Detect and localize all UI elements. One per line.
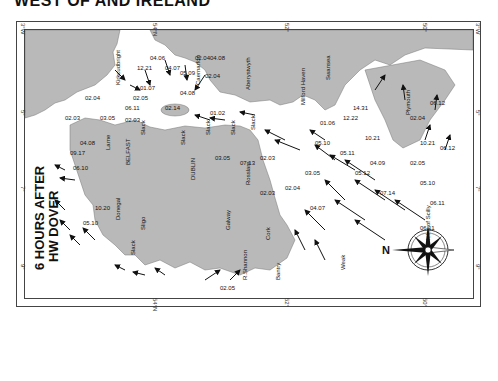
tick-top-52: 52° (284, 23, 290, 32)
svg-text:12.22: 12.22 (343, 115, 359, 121)
tidal-stream-map: Kirkcudbright Caernarfon Aberystwyth Mil… (24, 29, 474, 299)
svg-text:02.04: 02.04 (410, 115, 426, 121)
tick-bottom-50: 50° (422, 298, 428, 307)
svg-text:05.11: 05.11 (340, 150, 355, 156)
svg-text:05.09: 05.09 (180, 70, 196, 76)
tick-left-9: 9° (20, 264, 26, 270)
svg-text:02.03: 02.03 (125, 117, 141, 123)
svg-text:Milford Haven: Milford Haven (300, 68, 306, 105)
svg-text:Aberystwyth: Aberystwyth (245, 57, 251, 90)
svg-text:06.10: 06.10 (73, 165, 89, 171)
svg-text:07.13: 07.13 (240, 160, 256, 166)
svg-text:04.08: 04.08 (180, 90, 196, 96)
svg-text:02.03: 02.03 (260, 190, 276, 196)
svg-text:Slack: Slack (140, 119, 146, 135)
svg-text:04.09: 04.09 (370, 160, 386, 166)
svg-text:12.21: 12.21 (137, 65, 153, 71)
svg-text:Swansea: Swansea (325, 55, 331, 80)
tick-left-5: 5° (20, 110, 26, 116)
svg-text:DUBLIN: DUBLIN (190, 158, 196, 180)
tick-right-7: 7° (475, 186, 481, 192)
svg-text:R.Shannon: R.Shannon (242, 250, 248, 280)
svg-text:02.05: 02.05 (410, 160, 426, 166)
svg-text:02.14: 02.14 (165, 105, 181, 111)
page-title: WEST OF AND IRELAND (14, 0, 210, 10)
map-canvas: Kirkcudbright Caernarfon Aberystwyth Mil… (25, 30, 473, 298)
svg-text:Donegal: Donegal (115, 198, 121, 220)
map-time-title: 6 HOURS AFTER HW DOVER (33, 170, 61, 270)
tick-top-54: 54°N (152, 23, 158, 36)
svg-text:Slack: Slack (250, 114, 256, 130)
svg-text:14.31: 14.31 (353, 105, 369, 111)
svg-text:Cork: Cork (265, 226, 271, 240)
svg-text:Slack: Slack (180, 129, 186, 145)
tick-top-50: 50° (422, 23, 428, 32)
svg-text:01.02: 01.02 (210, 110, 226, 116)
svg-text:BELFAST: BELFAST (125, 138, 131, 165)
compass-north-label: N (382, 244, 390, 256)
svg-text:Sligo: Sligo (140, 216, 146, 230)
svg-text:06.11: 06.11 (125, 105, 140, 111)
tick-bottom-54: 54°N (152, 298, 158, 311)
svg-text:02.04: 02.04 (195, 55, 211, 61)
svg-text:07.14: 07.14 (380, 190, 396, 196)
tick-right-9: 9° (475, 264, 481, 270)
svg-text:05.10: 05.10 (420, 180, 436, 186)
tick-left-7: 7° (20, 186, 26, 192)
tick-bottom-52: 52° (284, 298, 290, 307)
land-scotland (25, 30, 120, 118)
svg-text:10.21: 10.21 (420, 140, 436, 146)
svg-text:02.03: 02.03 (260, 155, 276, 161)
svg-text:Slack: Slack (230, 119, 236, 135)
svg-text:Larne: Larne (105, 134, 111, 150)
map-title-line1: 6 HOURS AFTER (33, 170, 47, 270)
svg-text:Slack: Slack (130, 239, 136, 255)
svg-text:Bantry: Bantry (275, 263, 281, 280)
svg-text:10.20: 10.20 (95, 205, 111, 211)
svg-text:03.05: 03.05 (305, 170, 321, 176)
svg-text:06.12: 06.12 (440, 145, 456, 151)
svg-text:05.10: 05.10 (83, 220, 99, 226)
svg-text:Weak: Weak (340, 254, 346, 270)
svg-text:02.04: 02.04 (205, 73, 221, 79)
svg-text:02.03: 02.03 (65, 115, 81, 121)
svg-text:10.21: 10.21 (365, 135, 381, 141)
tick-top-left: 3°W (20, 23, 26, 34)
svg-text:06.11: 06.11 (430, 200, 445, 206)
svg-text:04.07: 04.07 (165, 65, 181, 71)
tick-right-3: 3°W (475, 23, 481, 34)
svg-text:01.07: 01.07 (140, 85, 156, 91)
svg-text:05.12: 05.12 (355, 170, 371, 176)
svg-text:02.05: 02.05 (220, 285, 236, 291)
svg-text:02.04: 02.04 (85, 95, 101, 101)
svg-text:02.05: 02.05 (133, 95, 149, 101)
svg-text:04.08: 04.08 (210, 55, 226, 61)
svg-text:Slack: Slack (205, 119, 211, 135)
svg-text:02.04: 02.04 (285, 185, 301, 191)
compass-rose-icon: N (382, 224, 454, 276)
svg-text:03.05: 03.05 (215, 155, 231, 161)
svg-text:04.07: 04.07 (310, 205, 326, 211)
svg-text:01.06: 01.06 (320, 120, 336, 126)
svg-text:09.17: 09.17 (70, 150, 86, 156)
svg-text:Galway: Galway (225, 210, 231, 230)
svg-text:Kirkcudbright: Kirkcudbright (115, 50, 121, 85)
svg-text:04.08: 04.08 (80, 140, 96, 146)
map-title-line2: HW DOVER (47, 170, 61, 270)
svg-text:03.05: 03.05 (100, 115, 116, 121)
svg-text:Plymouth: Plymouth (405, 90, 411, 115)
tick-right-5: 5° (475, 110, 481, 116)
svg-text:04.06: 04.06 (150, 55, 166, 61)
svg-text:05.10: 05.10 (315, 140, 331, 146)
svg-text:06.12: 06.12 (430, 100, 446, 106)
